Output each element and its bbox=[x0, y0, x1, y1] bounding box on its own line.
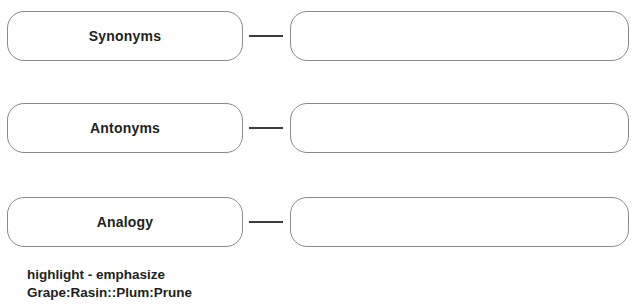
term-label: Analogy bbox=[97, 215, 154, 229]
match-row: Synonyms bbox=[0, 11, 637, 63]
term-box-synonyms[interactable]: Synonyms bbox=[7, 11, 243, 61]
word-bank: highlight - emphasize Grape:Rasin::Plum:… bbox=[27, 266, 587, 302]
word-bank-line: highlight - emphasize bbox=[27, 266, 587, 284]
term-box-antonyms[interactable]: Antonyms bbox=[7, 103, 243, 153]
connector-dash-icon bbox=[249, 35, 283, 37]
connector-dash-icon bbox=[249, 127, 283, 129]
matching-worksheet: Synonyms Antonyms Analogy highlight - em… bbox=[0, 0, 637, 308]
match-row: Antonyms bbox=[0, 103, 637, 155]
answer-box-synonyms[interactable] bbox=[290, 11, 629, 61]
term-label: Synonyms bbox=[89, 29, 161, 43]
term-label: Antonyms bbox=[90, 121, 160, 135]
word-bank-line: Grape:Rasin::Plum:Prune bbox=[27, 284, 587, 302]
match-row: Analogy bbox=[0, 197, 637, 249]
answer-box-analogy[interactable] bbox=[290, 197, 629, 247]
answer-box-antonyms[interactable] bbox=[290, 103, 629, 153]
term-box-analogy[interactable]: Analogy bbox=[7, 197, 243, 247]
connector-dash-icon bbox=[249, 221, 283, 223]
